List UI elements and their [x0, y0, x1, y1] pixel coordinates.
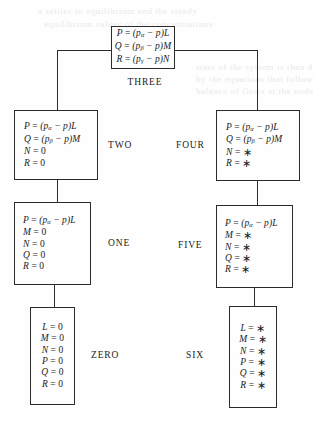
state-label-three: THREE — [121, 77, 169, 87]
state-label-six: SIX — [186, 350, 204, 360]
scan-ghost-text-line-1: a settles to equilibrium and the steady — [38, 6, 197, 16]
state-box-six[interactable]: L = ∗ M = ∗ N = ∗ P = ∗ Q = ∗ R = ∗ — [229, 306, 277, 408]
connector-three-to-four-horizontal — [174, 50, 258, 51]
state-box-two[interactable]: P = (pα − p)L Q = (pβ − p)M N = 0 R = 0 — [14, 110, 98, 180]
equation-row: M = 0 — [41, 333, 64, 344]
state-label-four: FOUR — [176, 140, 205, 150]
equation-row: R = ∗ — [225, 264, 250, 275]
equation-row: R = 0 — [42, 379, 63, 390]
equation-row: R = (pγ − p)N — [116, 54, 169, 67]
scan-ghost-text-line-5: balance of flows at the nodes — [196, 86, 313, 96]
equation-row: P = 0 — [42, 356, 63, 367]
scan-ghost-text-line-4: by the equations that follow from the — [196, 74, 313, 84]
state-box-three-equations: P = (pα − p)L Q = (pβ − p)M R = (pγ − p)… — [112, 27, 174, 68]
state-label-one: ONE — [108, 238, 130, 248]
equation-row: Q = 0 — [23, 250, 45, 261]
connector-three-to-four-vertical — [257, 50, 258, 110]
equation-row: N = 0 — [23, 239, 45, 250]
equation-row: P = (pα − p)L — [24, 121, 77, 134]
state-box-six-equations: L = ∗ M = ∗ N = ∗ P = ∗ Q = ∗ R = ∗ — [230, 307, 276, 407]
equation-row: R = ∗ — [226, 158, 251, 169]
connector-three-to-two-vertical — [57, 50, 58, 110]
equation-row: M = ∗ — [225, 230, 253, 241]
connector-four-to-five — [257, 181, 258, 205]
equation-row: Q = (pβ − p)M — [226, 134, 282, 147]
state-box-four-equations: P = (pα − p)L Q = (pβ − p)M N = ∗ R = ∗ — [217, 111, 299, 180]
state-box-five-equations: P = (pα − p)L M = ∗ N = ∗ Q = ∗ R = ∗ — [217, 206, 292, 287]
equation-row: R = 0 — [23, 261, 44, 272]
equation-row: M = 0 — [23, 227, 46, 238]
equation-row: P = (pα − p)L — [226, 122, 279, 135]
equation-row: N = 0 — [42, 345, 64, 356]
equation-row: P = (pα − p)L — [117, 28, 170, 41]
equation-row: P = (pα − p)L — [23, 215, 76, 228]
equation-row: Q = ∗ — [240, 368, 267, 379]
equation-row: Q = (pβ − p)M — [24, 134, 80, 147]
state-box-zero-equations: L = 0 M = 0 N = 0 P = 0 Q = 0 R = 0 — [31, 308, 74, 404]
state-box-one-equations: P = (pα − p)L M = 0 N = 0 Q = 0 R = 0 — [15, 203, 90, 284]
equation-row: L = 0 — [42, 322, 63, 333]
equation-row: R = ∗ — [240, 380, 265, 391]
state-box-two-equations: P = (pα − p)L Q = (pβ − p)M N = 0 R = 0 — [15, 111, 97, 179]
connector-two-to-one — [57, 180, 58, 203]
equation-row: N = 0 — [24, 146, 46, 157]
state-box-zero[interactable]: L = 0 M = 0 N = 0 P = 0 Q = 0 R = 0 — [30, 307, 75, 405]
state-box-three[interactable]: P = (pα − p)L Q = (pβ − p)M R = (pγ − p)… — [111, 26, 175, 69]
state-label-zero: ZERO — [91, 350, 119, 360]
connector-five-to-six — [254, 288, 255, 307]
equation-row: M = ∗ — [239, 334, 267, 345]
figure-canvas: a settles to equilibrium and the steady … — [0, 0, 313, 426]
connector-three-to-two-horizontal — [57, 50, 111, 51]
state-box-five[interactable]: P = (pα − p)L M = ∗ N = ∗ Q = ∗ R = ∗ — [216, 205, 293, 288]
state-label-two: TWO — [108, 140, 132, 150]
state-box-four[interactable]: P = (pα − p)L Q = (pβ − p)M N = ∗ R = ∗ — [216, 110, 300, 181]
state-label-five: FIVE — [178, 240, 203, 250]
equation-row: Q = 0 — [41, 367, 63, 378]
scan-ghost-text-line-3: state of the system is then described — [196, 62, 313, 72]
equation-row: Q = (pβ − p)M — [115, 41, 171, 54]
equation-row: R = 0 — [24, 158, 45, 169]
state-box-one[interactable]: P = (pα − p)L M = 0 N = 0 Q = 0 R = 0 — [14, 202, 91, 285]
connector-one-to-zero — [54, 285, 55, 307]
